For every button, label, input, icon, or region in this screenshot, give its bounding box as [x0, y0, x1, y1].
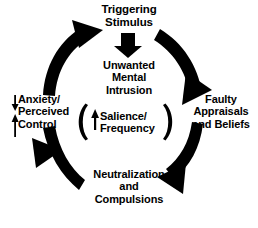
node-unwanted-mental-intrusion: Unwanted Mental Intrusion — [79, 59, 179, 96]
node-salience-frequency: Salience/ Frequency — [100, 110, 162, 134]
node-triggering-stimulus: Triggering Stimulus — [79, 3, 179, 29]
node-neutralization-and-compulsions: Neutralization and Compulsions — [72, 168, 186, 205]
thick-down-arrow-icon — [114, 33, 142, 58]
node-faulty-appraisals-and-beliefs: Faulty Appraisals and Beliefs — [184, 93, 258, 130]
up-arrow-icon-salience — [91, 109, 99, 130]
left-parenthesis-icon — [79, 104, 88, 141]
ocd-cycle-diagram: Triggering Stimulus Unwanted Mental Intr… — [0, 0, 258, 228]
right-parenthesis-icon — [163, 104, 172, 141]
node-anxiety-perceived-control: Anxiety/ Perceived Control — [18, 93, 80, 130]
